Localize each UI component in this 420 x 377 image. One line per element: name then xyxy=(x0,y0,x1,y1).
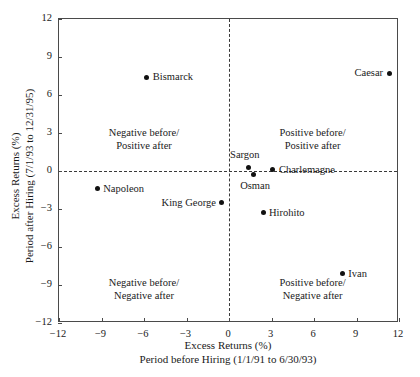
plot-area: BismarckCaesarNapoleonKing GeorgeSargonO… xyxy=(58,18,398,322)
quadrant-note-top-left: Negative before/Positive after xyxy=(109,126,179,152)
y-tick xyxy=(58,57,62,58)
data-point-label: Caesar xyxy=(355,67,384,79)
y-axis-title-main: Excess Returns (%) xyxy=(8,16,22,336)
x-tick xyxy=(187,318,188,322)
data-point xyxy=(144,75,149,80)
x-tick xyxy=(272,318,273,322)
data-point-label: Sargon xyxy=(230,149,260,161)
reference-line-vertical xyxy=(229,19,230,321)
x-tick xyxy=(229,318,230,322)
x-tick xyxy=(314,318,315,322)
x-tick xyxy=(144,318,145,322)
data-point-label: Bismarck xyxy=(153,71,193,83)
y-tick xyxy=(58,209,62,210)
x-tick xyxy=(102,318,103,322)
x-axis-title-main: Excess Returns (%) xyxy=(58,338,398,352)
y-tick xyxy=(58,171,62,172)
data-point-label: Osman xyxy=(240,180,270,192)
quadrant-note-line2: Positive after xyxy=(109,139,179,152)
x-tick xyxy=(357,318,358,322)
y-tick xyxy=(58,285,62,286)
y-tick xyxy=(58,133,62,134)
data-point xyxy=(219,200,224,205)
quadrant-note-line1: Positive before/ xyxy=(279,126,345,139)
y-tick xyxy=(58,95,62,96)
reference-line-horizontal xyxy=(59,171,397,172)
data-point xyxy=(95,186,100,191)
data-point-label: Charlemagne xyxy=(279,164,335,176)
x-axis-title: Excess Returns (%) Period before Hiring … xyxy=(58,338,398,366)
data-point xyxy=(387,71,392,76)
data-point-label: Ivan xyxy=(348,268,367,280)
data-point-label: Hirohito xyxy=(269,207,305,219)
quadrant-note-line1: Negative before/ xyxy=(109,126,179,139)
data-point xyxy=(251,172,256,177)
y-axis-title: Excess Returns (%) Period after Hiring (… xyxy=(8,16,36,336)
scatter-chart-figure: BismarckCaesarNapoleonKing GeorgeSargonO… xyxy=(0,0,420,377)
y-tick xyxy=(58,247,62,248)
data-point xyxy=(246,165,251,170)
quadrant-note-top-right: Positive before/Positive after xyxy=(279,126,345,152)
data-point-label: King George xyxy=(162,197,216,209)
quadrant-note-line2: Negative after xyxy=(109,289,179,302)
quadrant-note-line1: Negative before/ xyxy=(109,276,179,289)
quadrant-note-bottom-right: Positive before/Negative after xyxy=(279,276,345,302)
y-tick xyxy=(58,323,62,324)
data-point-label: Napoleon xyxy=(103,183,144,195)
y-tick xyxy=(58,19,62,20)
y-axis-title-sub: Period after Hiring (7/1/93 to 12/31/95) xyxy=(22,16,36,336)
quadrant-note-bottom-left: Negative before/Negative after xyxy=(109,276,179,302)
x-tick xyxy=(399,318,400,322)
quadrant-note-line2: Negative after xyxy=(279,289,345,302)
quadrant-note-line2: Positive after xyxy=(279,139,345,152)
quadrant-note-line1: Positive before/ xyxy=(279,276,345,289)
x-axis-title-sub: Period before Hiring (1/1/91 to 6/30/93) xyxy=(58,352,398,366)
data-point xyxy=(261,210,266,215)
x-tick xyxy=(59,318,60,322)
